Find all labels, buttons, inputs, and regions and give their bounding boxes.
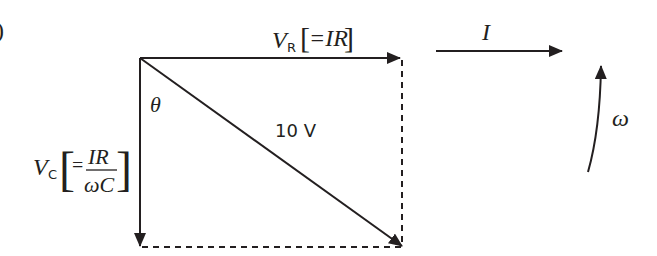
vr-label: V R [ =IR ] xyxy=(272,21,354,55)
angular-velocity-label: ω xyxy=(612,105,629,131)
angle-theta-label: θ xyxy=(150,92,161,117)
part-marker: ) xyxy=(0,17,4,43)
resultant-voltage-label: 10 V xyxy=(275,120,317,141)
svg-text:R: R xyxy=(287,40,296,55)
svg-text:ωC: ωC xyxy=(84,172,115,197)
resultant-phasor-arrow xyxy=(140,58,402,246)
bracket-right: ] xyxy=(344,21,354,54)
svg-text:=IR: =IR xyxy=(309,25,348,51)
phasor-diagram: ) V R [ =IR ] θ 10 V V C [ = IR ωC ] I ω xyxy=(0,0,657,256)
svg-text:C: C xyxy=(48,167,57,182)
svg-text:IR: IR xyxy=(87,144,109,169)
rotation-arc-arrow xyxy=(588,66,601,172)
current-label: I xyxy=(481,19,491,45)
svg-text:=: = xyxy=(72,154,83,176)
bracket-right: ] xyxy=(116,142,132,195)
vc-label: V C [ = IR ωC ] xyxy=(33,142,132,197)
